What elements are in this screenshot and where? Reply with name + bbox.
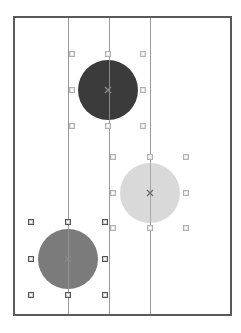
resize-handle[interactable] [28,292,34,298]
resize-handle[interactable] [110,225,116,231]
resize-handle[interactable] [140,51,146,57]
resize-handle[interactable] [140,87,146,93]
resize-handle[interactable] [147,154,153,160]
resize-handle[interactable] [102,256,108,262]
resize-handle[interactable] [102,292,108,298]
center-x-icon[interactable] [104,86,112,94]
resize-handle[interactable] [102,219,108,225]
resize-handle[interactable] [110,154,116,160]
resize-handle[interactable] [69,51,75,57]
resize-handle[interactable] [183,225,189,231]
resize-handle[interactable] [183,154,189,160]
resize-handle[interactable] [69,123,75,129]
resize-handle[interactable] [147,225,153,231]
resize-handle[interactable] [28,256,34,262]
resize-handle[interactable] [105,51,111,57]
center-x-icon[interactable] [64,255,72,263]
guide-line-overlay [109,18,110,314]
resize-handle[interactable] [183,190,189,196]
resize-handle[interactable] [28,219,34,225]
resize-handle[interactable] [105,123,111,129]
center-x-icon[interactable] [146,189,154,197]
guide-line-overlay [150,18,151,314]
resize-handle[interactable] [69,87,75,93]
guide-line-overlay [68,18,69,314]
resize-handle[interactable] [65,292,71,298]
drawing-canvas[interactable] [13,16,232,316]
resize-handle[interactable] [110,190,116,196]
resize-handle[interactable] [140,123,146,129]
resize-handle[interactable] [65,219,71,225]
